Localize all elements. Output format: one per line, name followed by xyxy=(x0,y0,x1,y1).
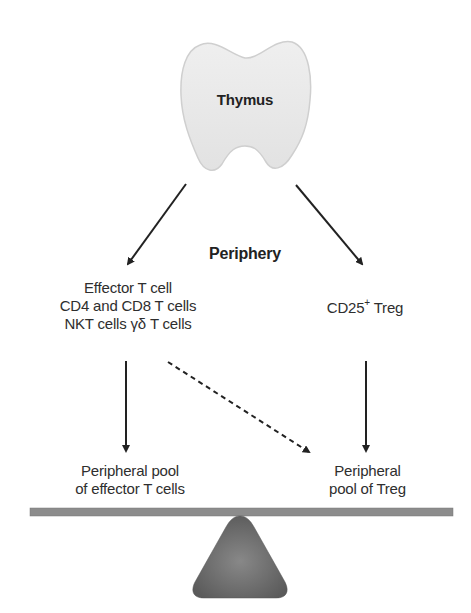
arrow-thymus-to-effector xyxy=(128,184,186,264)
pool-effector-block: Peripheral pool of effector T cells xyxy=(50,462,210,498)
pool-effector-line-1: Peripheral pool xyxy=(50,462,210,480)
balance-fulcrum xyxy=(193,516,287,598)
pool-treg-block: Peripheral pool of Treg xyxy=(310,462,425,498)
treg-label: CD25+ Treg xyxy=(310,299,420,317)
arrow-thymus-to-treg xyxy=(296,185,362,264)
balance-beam xyxy=(30,508,453,516)
pool-treg-line-2: pool of Treg xyxy=(310,480,425,498)
pool-treg-line-1: Peripheral xyxy=(310,462,425,480)
effector-line-2: CD4 and CD8 T cells xyxy=(40,297,216,315)
effector-line-3: NKT cells γδ T cells xyxy=(40,315,216,333)
treg-suffix: Treg xyxy=(370,299,403,316)
pool-effector-line-2: of effector T cells xyxy=(50,480,210,498)
periphery-label: Periphery xyxy=(195,245,295,263)
effector-cells-block: Effector T cell CD4 and CD8 T cells NKT … xyxy=(40,279,216,333)
thymus-label: Thymus xyxy=(205,91,285,109)
treg-prefix: CD25 xyxy=(327,299,365,316)
treg-superscript: + xyxy=(364,297,370,308)
effector-line-1: Effector T cell xyxy=(40,279,216,297)
dashed-arrow-effector-to-treg-pool xyxy=(168,362,309,452)
